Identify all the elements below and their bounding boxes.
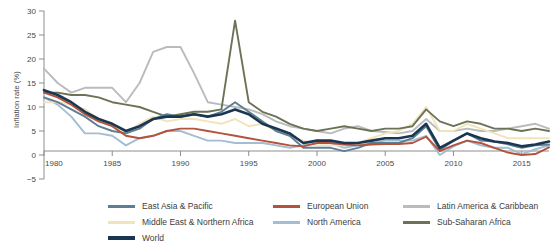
legend-item[interactable]: North America bbox=[273, 214, 403, 230]
legend-swatch bbox=[403, 221, 430, 224]
y-axis-ticks: −5051015202530 bbox=[27, 7, 44, 184]
y-tick-label: 30 bbox=[27, 7, 36, 16]
legend-item[interactable]: Middle East & Northern Africa bbox=[108, 214, 273, 230]
legend-label: European Union bbox=[307, 202, 368, 211]
x-tick-label: 2010 bbox=[445, 159, 463, 168]
chart-legend: East Asia & PacificEuropean UnionLatin A… bbox=[108, 198, 552, 248]
x-tick-label: 1985 bbox=[103, 159, 121, 168]
inflation-rate-line-chart: Inflation rate (%) −5051015202530 198019… bbox=[0, 0, 556, 251]
legend-item[interactable]: Latin America & Caribbean bbox=[403, 198, 538, 214]
y-tick-label: 15 bbox=[27, 79, 36, 88]
x-tick-label: 2000 bbox=[308, 159, 326, 168]
legend-label: Sub-Saharan Africa bbox=[437, 218, 511, 227]
x-tick-label: 1995 bbox=[240, 159, 258, 168]
legend-swatch bbox=[108, 236, 135, 240]
y-tick-label: 25 bbox=[27, 31, 36, 40]
legend-item[interactable]: World bbox=[108, 230, 273, 246]
series-line bbox=[44, 90, 549, 148]
legend-row: East Asia & PacificEuropean UnionLatin A… bbox=[108, 198, 552, 214]
legend-label: North America bbox=[307, 218, 361, 227]
legend-swatch bbox=[273, 205, 300, 208]
legend-swatch bbox=[108, 221, 135, 224]
x-tick-label: 1980 bbox=[45, 159, 63, 168]
series-line bbox=[44, 21, 549, 131]
legend-label: East Asia & Pacific bbox=[142, 202, 213, 211]
legend-label: Latin America & Caribbean bbox=[437, 202, 538, 211]
data-series-group bbox=[44, 21, 549, 155]
legend-row: Middle East & Northern AfricaNorth Ameri… bbox=[108, 214, 552, 230]
x-axis-ticks: 19801985199019952000200520102015 bbox=[44, 151, 531, 168]
legend-swatch bbox=[108, 205, 135, 208]
legend-label: World bbox=[142, 234, 164, 243]
series-line bbox=[44, 93, 549, 155]
y-tick-label: 10 bbox=[27, 103, 36, 112]
y-tick-label: 5 bbox=[32, 127, 37, 136]
plot-area: −5051015202530 1980198519901995200020052… bbox=[0, 0, 556, 196]
x-tick-label: 1990 bbox=[172, 159, 190, 168]
legend-swatch bbox=[403, 205, 430, 208]
x-tick-label: 2005 bbox=[376, 159, 394, 168]
x-tick-label: 2015 bbox=[513, 159, 531, 168]
y-tick-label: 20 bbox=[27, 55, 36, 64]
legend-item[interactable]: European Union bbox=[273, 198, 403, 214]
legend-item[interactable]: Sub-Saharan Africa bbox=[403, 214, 511, 230]
legend-item[interactable]: East Asia & Pacific bbox=[108, 198, 273, 214]
legend-swatch bbox=[273, 221, 300, 224]
legend-row: World bbox=[108, 230, 552, 246]
series-line bbox=[44, 47, 549, 133]
y-tick-label: −5 bbox=[27, 175, 37, 184]
legend-label: Middle East & Northern Africa bbox=[142, 218, 254, 227]
y-tick-label: 0 bbox=[32, 151, 37, 160]
